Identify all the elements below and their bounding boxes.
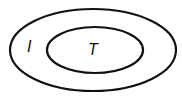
outer-set-label: I <box>27 38 32 55</box>
venn-diagram: I T <box>0 0 182 108</box>
inner-set-label: T <box>88 41 99 58</box>
